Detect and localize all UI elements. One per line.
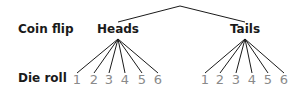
heads-die-outcome-4: 4 bbox=[121, 72, 129, 87]
tails-die-outcome-1: 1 bbox=[201, 72, 209, 87]
heads-die-outcome-2: 2 bbox=[90, 72, 98, 87]
tails-die-outcome-4: 4 bbox=[248, 72, 256, 87]
tails-die-outcome-5: 5 bbox=[264, 72, 272, 87]
tails-die-outcome-2: 2 bbox=[216, 72, 224, 87]
heads-die-outcome-3: 3 bbox=[105, 72, 113, 87]
node-heads: Heads bbox=[97, 22, 139, 36]
heads-die-outcome-6: 6 bbox=[154, 72, 162, 87]
tails-die-outcome-6: 6 bbox=[280, 72, 288, 87]
tails-die-outcome-3: 3 bbox=[232, 72, 240, 87]
heads-die-outcome-5: 5 bbox=[138, 72, 146, 87]
node-tails: Tails bbox=[230, 22, 260, 36]
row-label-coin-flip: Coin flip bbox=[18, 22, 73, 36]
heads-die-outcome-1: 1 bbox=[73, 72, 81, 87]
row-label-die-roll: Die roll bbox=[18, 71, 67, 85]
